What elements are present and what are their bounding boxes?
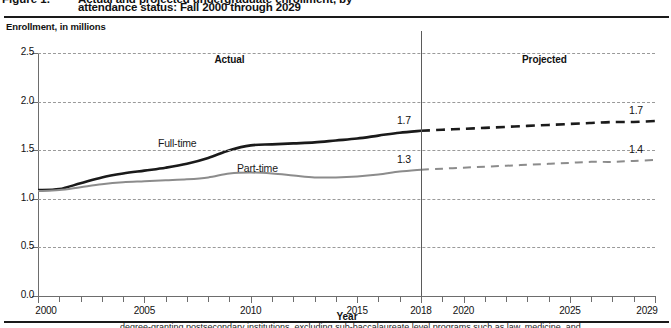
x-axis-tick	[59, 296, 60, 302]
gridline	[38, 247, 655, 248]
x-axis-tick	[229, 296, 230, 302]
x-axis-tick-major	[570, 296, 571, 303]
y-axis-label: 1.0	[0, 192, 34, 203]
series-label-full-time: Full-time	[158, 137, 196, 149]
value-label-full-time-2018: 1.7	[397, 114, 411, 126]
x-axis-tick	[506, 296, 507, 302]
series-label-part-time: Part-time	[237, 162, 278, 174]
x-axis-tick	[378, 296, 379, 302]
x-axis-tick-major	[421, 296, 422, 303]
x-axis-tick	[442, 296, 443, 302]
x-axis-tick-major	[251, 296, 252, 303]
value-label-full-time-2029: 1.7	[629, 104, 643, 116]
figure-footnote: degree-granting postsecondary institutio…	[120, 322, 669, 328]
x-axis-tick	[293, 296, 294, 302]
header-rule	[4, 16, 669, 18]
x-axis-tick	[336, 296, 337, 302]
line-full-time-actual	[38, 131, 421, 190]
x-axis-tick	[634, 296, 635, 302]
x-axis-tick	[485, 296, 486, 302]
x-axis-tick	[591, 296, 592, 302]
x-axis-tick	[102, 296, 103, 302]
x-axis-line	[38, 296, 656, 297]
x-axis-tick-major	[357, 296, 358, 303]
actual-projected-divider	[421, 31, 422, 296]
gridline	[38, 199, 655, 200]
x-axis-tick	[81, 296, 82, 302]
x-axis-tick	[400, 296, 401, 302]
x-axis-tick	[123, 296, 124, 302]
x-axis-tick	[549, 296, 550, 302]
y-axis-caption: Enrollment, in millions	[6, 21, 106, 32]
x-axis-tick	[612, 296, 613, 302]
x-axis-tick	[208, 296, 209, 302]
x-axis-tick-major	[464, 296, 465, 303]
y-axis-label: 2.5	[0, 46, 34, 57]
figure-title-line-2: attendance status: Fall 2000 through 202…	[78, 1, 301, 13]
x-axis-tick	[187, 296, 188, 302]
y-axis-label: 0.0	[0, 289, 34, 300]
y-axis-label: 1.5	[0, 143, 34, 154]
line-full-time-projected	[421, 121, 655, 131]
value-label-part-time-2018: 1.3	[397, 153, 411, 165]
x-axis-tick	[527, 296, 528, 302]
gridline	[38, 102, 655, 103]
x-axis-tick-major	[655, 296, 656, 303]
x-axis-tick	[166, 296, 167, 302]
y-axis-label: 0.5	[0, 240, 34, 251]
line-part-time-projected	[421, 160, 655, 170]
plot-area: ActualProjected 1.71.31.71.4 Full-time P…	[38, 53, 655, 296]
figure-page: Figure 1. Actual and projected undergrad…	[0, 0, 671, 328]
x-axis-tick	[315, 296, 316, 302]
gridline	[38, 150, 655, 151]
value-label-part-time-2029: 1.4	[629, 143, 643, 155]
x-axis-tick	[272, 296, 273, 302]
region-label-projected: Projected	[522, 54, 567, 65]
y-axis-label: 2.0	[0, 95, 34, 106]
x-axis-tick-major	[144, 296, 145, 303]
region-label-actual: Actual	[214, 54, 244, 65]
x-axis-tick-major	[38, 296, 39, 303]
series-lines	[38, 53, 655, 296]
